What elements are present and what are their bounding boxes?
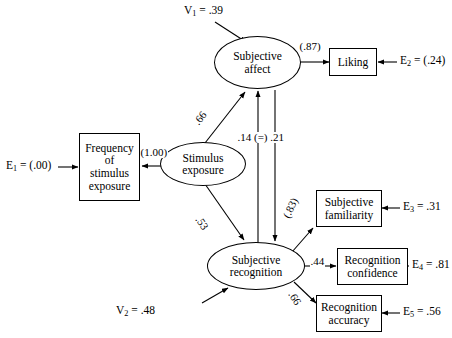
recognition-accuracy-line2: accuracy bbox=[321, 314, 377, 327]
path-label-recognition-to-accuracy: .66 bbox=[286, 290, 303, 307]
path-diagram-canvas: Subjective affect Stimulus exposure Subj… bbox=[0, 0, 452, 338]
arrow-subjective-recognition-to-subjective-familiarity bbox=[292, 228, 313, 252]
path-label-recognition-to-familiarity: (.83) bbox=[281, 196, 300, 220]
observed-node-liking[interactable]: Liking bbox=[329, 48, 377, 76]
error-term-e4: E4 = .81 bbox=[412, 259, 450, 272]
observed-node-frequency-of-stimulus-exposure[interactable]: Frequency of stimulus exposure bbox=[79, 133, 140, 201]
subjective-familiarity-line2: familiarity bbox=[325, 209, 374, 222]
liking-box-label: Liking bbox=[338, 56, 369, 69]
path-label-recognition-to-confidence: .44 bbox=[310, 256, 325, 267]
e5-symbol: E bbox=[403, 305, 410, 317]
e3-value: = .31 bbox=[414, 200, 441, 212]
disturbance-term-v2: V2 = .48 bbox=[116, 305, 155, 318]
recognition-confidence-line2: confidence bbox=[344, 267, 400, 280]
e1-symbol: E bbox=[6, 159, 13, 171]
frequency-box-line3: stimulus bbox=[85, 167, 134, 180]
path-label-affect-to-liking: (.87) bbox=[299, 41, 321, 52]
recognition-confidence-line1: Recognition bbox=[344, 254, 400, 267]
latent-node-subjective-recognition-line1: Subjective bbox=[230, 254, 282, 266]
arrow-v2-to-subjective-recognition bbox=[202, 288, 228, 303]
e2-symbol: E bbox=[400, 54, 407, 66]
recognition-accuracy-line1: Recognition bbox=[321, 301, 377, 314]
frequency-box-line4: exposure bbox=[85, 180, 134, 193]
e5-value: = .56 bbox=[414, 305, 441, 317]
latent-node-stimulus-exposure[interactable]: Stimulus exposure bbox=[160, 142, 246, 186]
disturbance-term-v1: V1 = .39 bbox=[184, 5, 223, 18]
path-label-reciprocal-affect-recognition: .14 (=) .21 bbox=[237, 132, 285, 143]
error-term-e3: E3 = .31 bbox=[403, 201, 441, 214]
e4-value: = .81 bbox=[423, 258, 450, 270]
e4-symbol: E bbox=[412, 258, 419, 270]
e1-value: = (.00) bbox=[17, 159, 51, 171]
v2-value: = .48 bbox=[128, 304, 155, 316]
error-term-e5: E5 = .56 bbox=[403, 306, 441, 319]
latent-node-subjective-affect-line2: affect bbox=[233, 63, 282, 75]
latent-node-subjective-recognition[interactable]: Subjective recognition bbox=[207, 242, 305, 290]
latent-node-subjective-affect[interactable]: Subjective affect bbox=[214, 36, 301, 89]
latent-node-stimulus-exposure-line1: Stimulus bbox=[182, 152, 224, 164]
path-label-exposure-to-frequency: (1.00) bbox=[140, 147, 168, 158]
e3-symbol: E bbox=[403, 200, 410, 212]
v1-value: = .39 bbox=[196, 4, 223, 16]
path-label-exposure-to-affect: .66 bbox=[192, 109, 209, 127]
observed-node-recognition-confidence[interactable]: Recognition confidence bbox=[337, 248, 408, 285]
observed-node-subjective-familiarity[interactable]: Subjective familiarity bbox=[316, 190, 382, 227]
e2-value: = (.24) bbox=[411, 54, 445, 66]
error-term-e2: E2 = (.24) bbox=[400, 55, 445, 68]
frequency-box-line1: Frequency bbox=[85, 142, 134, 155]
error-term-e1: E1 = (.00) bbox=[6, 160, 51, 173]
latent-node-subjective-recognition-line2: recognition bbox=[230, 266, 282, 278]
subjective-familiarity-line1: Subjective bbox=[325, 196, 374, 209]
latent-node-subjective-affect-line1: Subjective bbox=[233, 50, 282, 62]
observed-node-recognition-accuracy[interactable]: Recognition accuracy bbox=[316, 295, 382, 332]
frequency-box-line2: of bbox=[85, 154, 134, 167]
arrow-stimulus-exposure-to-subjective-recognition bbox=[205, 184, 244, 240]
latent-node-stimulus-exposure-line2: exposure bbox=[182, 164, 224, 176]
path-label-exposure-to-recognition: .53 bbox=[193, 214, 210, 232]
